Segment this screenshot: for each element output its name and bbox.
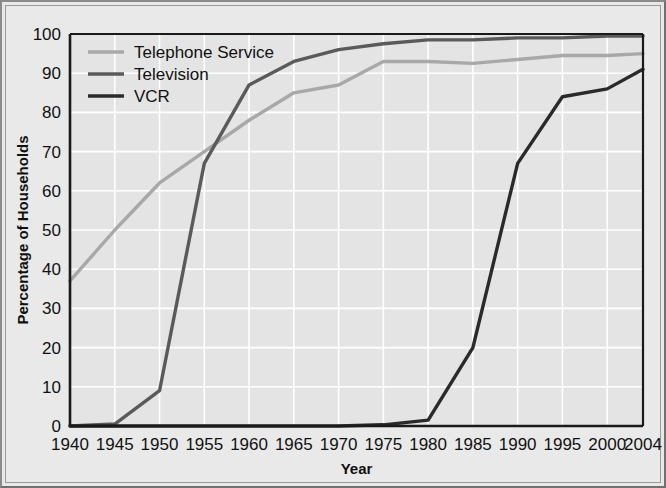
x-axis-tick-label: 2000 bbox=[588, 435, 626, 454]
y-axis-tick-label: 50 bbox=[42, 221, 61, 240]
y-axis-tick-label: 30 bbox=[42, 299, 61, 318]
x-axis-tick-label: 2004 bbox=[624, 435, 662, 454]
legend-label-vcr: VCR bbox=[134, 87, 170, 106]
y-axis-tick-label: 90 bbox=[42, 64, 61, 83]
y-axis-tick-label: 0 bbox=[52, 417, 61, 436]
y-axis-tick-label: 60 bbox=[42, 182, 61, 201]
x-axis-tick-label: 1960 bbox=[230, 435, 268, 454]
x-axis-tick-label: 1970 bbox=[320, 435, 358, 454]
x-axis-title: Year bbox=[341, 460, 373, 477]
y-axis-tick-label: 20 bbox=[42, 339, 61, 358]
line-chart: 0102030405060708090100194019451950195519… bbox=[6, 6, 662, 484]
x-axis-tick-label: 1975 bbox=[364, 435, 402, 454]
x-axis-tick-label: 1950 bbox=[141, 435, 179, 454]
x-axis-tick-label: 1965 bbox=[275, 435, 313, 454]
x-axis-tick-label: 1945 bbox=[96, 435, 134, 454]
y-axis-tick-label: 10 bbox=[42, 378, 61, 397]
x-axis-tick-label: 1940 bbox=[51, 435, 89, 454]
chart-figure-inner-frame: 0102030405060708090100194019451950195519… bbox=[5, 5, 661, 483]
x-axis-tick-label: 1980 bbox=[409, 435, 447, 454]
y-axis-tick-label: 80 bbox=[42, 103, 61, 122]
y-axis-title: Percentage of Households bbox=[14, 135, 31, 324]
y-axis-tick-label: 100 bbox=[33, 25, 61, 44]
y-axis-tick-label: 40 bbox=[42, 260, 61, 279]
x-axis-tick-label: 1995 bbox=[544, 435, 582, 454]
x-axis-tick-label: 1990 bbox=[499, 435, 537, 454]
x-axis-tick-label: 1955 bbox=[185, 435, 223, 454]
x-axis-tick-label: 1985 bbox=[454, 435, 492, 454]
y-axis-tick-label: 70 bbox=[42, 143, 61, 162]
chart-figure: 0102030405060708090100194019451950195519… bbox=[0, 0, 666, 488]
legend-label-telephone-service: Telephone Service bbox=[134, 43, 274, 62]
legend-label-television: Television bbox=[134, 65, 209, 84]
